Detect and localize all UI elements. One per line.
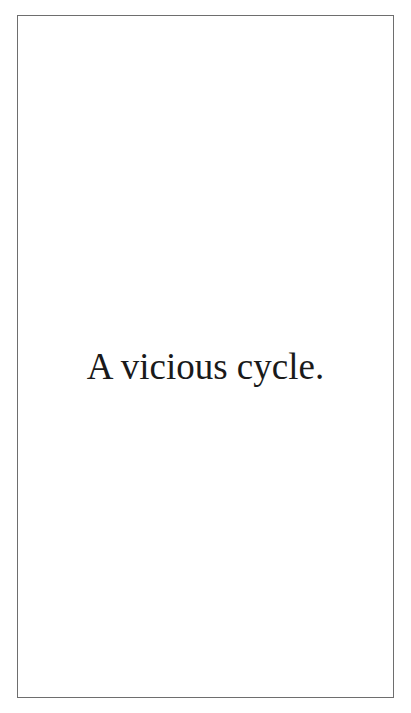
page-statement: A vicious cycle.	[18, 348, 393, 385]
page-frame: A vicious cycle.	[17, 15, 394, 698]
